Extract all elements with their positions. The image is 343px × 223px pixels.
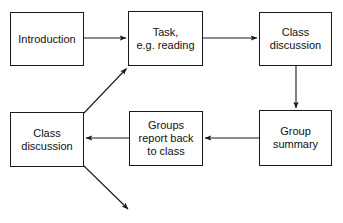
node-class-discussion-bottom[interactable]: Class discussion xyxy=(10,112,84,167)
node-group-summary[interactable]: Group summary xyxy=(259,110,332,166)
node-groups-report-back[interactable]: Groups report back to class xyxy=(129,111,203,166)
edge-class-discussion-bottom-to-task xyxy=(84,69,127,114)
node-introduction[interactable]: Introduction xyxy=(10,12,84,66)
node-class-discussion-top[interactable]: Class discussion xyxy=(259,12,332,66)
edge-class-discussion-bottom-to-next xyxy=(84,166,128,209)
flowchart-diagram: Introduction Task, e.g. reading Class di… xyxy=(0,0,343,223)
node-task[interactable]: Task, e.g. reading xyxy=(128,11,203,66)
